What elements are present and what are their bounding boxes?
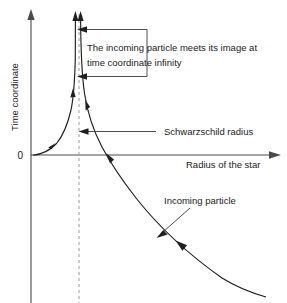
infinity-callout-bracket	[77, 26, 147, 80]
infinity-callout-line-1: The incoming particle meets its image at	[87, 42, 257, 53]
y-axis-label: Time coordinate	[9, 63, 20, 131]
infinity-callout-line-2: time coordinate infinity	[87, 57, 182, 68]
incoming-particle-branch-group	[78, 11, 266, 297]
schwarzschild-radius-label: Schwarzschild radius	[164, 126, 253, 137]
diagram-canvas: 0 Time coordinate Radius of the star The…	[0, 0, 287, 303]
y-axis-arrowhead-icon	[27, 9, 34, 20]
x-axis-arrowhead-icon	[269, 151, 281, 159]
origin-label: 0	[17, 150, 23, 161]
schwarzschild-time-coordinate-figure: 0 Time coordinate Radius of the star The…	[0, 0, 287, 303]
axes-group	[27, 9, 281, 303]
schwarzschild-leader-group	[79, 128, 157, 135]
image-branch-curve	[33, 19, 75, 155]
incoming-particle-leader-line	[163, 208, 190, 232]
image-branch-direction-arrow-2-icon	[70, 88, 75, 98]
x-axis-label: Radius of the star	[186, 159, 260, 170]
schwarzschild-arrowhead-icon	[79, 128, 89, 135]
image-branch-infinity-arrowhead-icon	[72, 11, 78, 21]
image-branch-group	[33, 11, 78, 155]
incoming-particle-label: Incoming particle	[164, 195, 236, 206]
incoming-particle-leader-group	[157, 208, 191, 238]
